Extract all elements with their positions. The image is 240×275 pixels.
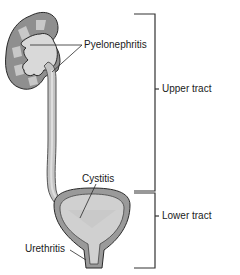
label-cystitis: Cystitis	[82, 173, 114, 184]
bladder	[54, 188, 130, 268]
label-upper-tract: Upper tract	[162, 83, 211, 94]
brackets	[134, 14, 159, 268]
label-lower-tract: Lower tract	[162, 210, 211, 221]
label-pyelonephritis: Pyelonephritis	[84, 39, 147, 50]
label-urethritis: Urethritis	[25, 243, 65, 254]
ureter	[44, 62, 70, 212]
